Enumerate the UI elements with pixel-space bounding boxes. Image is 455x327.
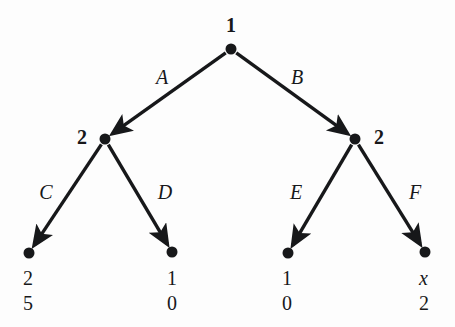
action-label-d: D bbox=[158, 182, 172, 202]
tree-edge-b bbox=[236, 53, 347, 134]
player-label-n2L: 2 bbox=[77, 127, 87, 147]
terminal-node-t1 bbox=[24, 248, 35, 259]
payoff-t2-player1: 1 bbox=[167, 268, 177, 288]
tree-edge-a bbox=[113, 53, 226, 134]
decision-node-root bbox=[226, 44, 237, 55]
tree-edges bbox=[34, 53, 420, 245]
terminal-node-t4 bbox=[420, 247, 431, 258]
player-label-root: 1 bbox=[226, 15, 236, 35]
tree-nodes bbox=[24, 44, 431, 259]
payoff-t3-player1: 1 bbox=[282, 268, 292, 288]
action-label-f: F bbox=[409, 182, 421, 202]
payoff-t3-player2: 0 bbox=[282, 293, 292, 313]
terminal-node-t2 bbox=[167, 247, 178, 258]
terminal-node-t3 bbox=[283, 248, 294, 259]
payoff-t4-player2: 2 bbox=[419, 293, 429, 313]
decision-node-n2R bbox=[350, 134, 361, 145]
player-label-n2R: 2 bbox=[374, 127, 384, 147]
payoff-t1-player1: 2 bbox=[23, 268, 33, 288]
payoff-t2-player2: 0 bbox=[167, 293, 177, 313]
game-tree-canvas bbox=[0, 0, 455, 327]
decision-node-n2L bbox=[100, 134, 111, 145]
action-label-a: A bbox=[156, 67, 168, 87]
payoff-t4-player1: x bbox=[419, 268, 428, 288]
action-label-e: E bbox=[290, 182, 302, 202]
action-label-b: B bbox=[291, 67, 303, 87]
payoff-t1-player2: 5 bbox=[23, 293, 33, 313]
action-label-c: C bbox=[39, 182, 52, 202]
game-tree-figure: ABCDEF122251010x2 bbox=[0, 0, 455, 327]
